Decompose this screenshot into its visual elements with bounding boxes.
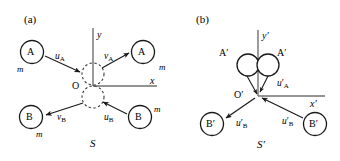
mass-a-outgoing: m [159,63,166,72]
velocity-u-B-sub: B [109,116,114,124]
velocity-u-prime-B-right-sub: B [289,120,294,128]
velocity-u-prime-A: u′A [277,79,289,89]
velocity-u-prime-B-left: u′B [236,119,248,129]
label-a-outgoing: A [138,47,145,57]
x-axis-label: x [150,76,154,86]
arrow-u-prime-A-right [260,76,268,92]
velocity-v-B: vB [57,113,66,123]
arrow-u-prime-B-left [226,98,255,118]
velocity-v-B-sub: B [61,116,66,124]
y-prime-axis-label: y′ [262,31,269,41]
velocity-u-A-sub: A [60,55,65,63]
panel-b-tag: (b) [196,14,209,25]
origin-label-b: O′ [234,90,243,100]
label-b-prime-right: B′ [309,119,318,129]
velocity-u-prime-A-sub: A [284,82,289,90]
panel-a-tag: (a) [24,14,36,25]
diagram-vector-layer [0,0,340,161]
x-prime-axis-label: x′ [310,99,317,109]
arrow-u-prime-A-left [247,76,257,94]
velocity-v-A: vA [104,52,113,62]
label-b-incoming: B [135,112,142,122]
panel-b-bodies [201,54,327,136]
arrow-u-prime-B-right [262,98,303,118]
mass-b-incoming: m [154,105,161,114]
circle-a-prime-right [257,54,279,76]
velocity-u-B: uB [104,113,113,123]
panel-a-velocity-arrows [45,53,129,115]
velocity-u-prime-B-left-sub: B [243,122,248,130]
mass-b-outgoing: m [36,130,43,139]
mass-a-incoming: m [17,65,24,74]
label-b-prime-left: B′ [206,119,215,129]
origin-label-a: O [72,81,79,91]
velocity-u-prime-B-right: u′B [282,117,294,127]
velocity-v-A-sub: A [108,55,113,63]
label-b-outgoing: B [26,112,33,122]
label-a-prime-left: A′ [219,48,228,58]
frame-label-s-prime: S′ [257,139,265,150]
y-axis-label: y [97,30,101,40]
dashed-circle-lower [82,86,104,108]
velocity-u-A: uA [55,52,65,62]
figure-canvas: (a) A m A m B m B m uA vA vB uB y x O S … [0,0,340,161]
circle-a-prime-left [237,54,259,76]
label-a-prime-right: A′ [277,48,286,58]
label-a-incoming: A [27,47,34,57]
frame-label-s: S [90,138,96,149]
